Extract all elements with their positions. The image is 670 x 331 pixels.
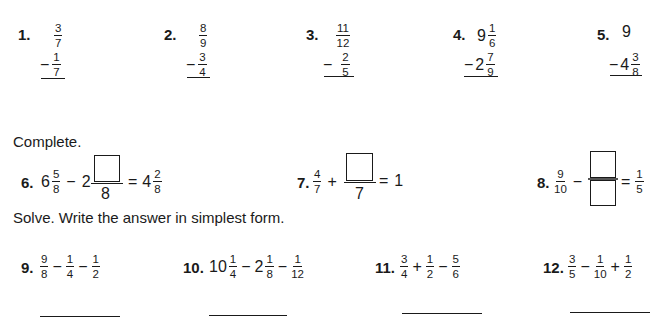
problem-7-number: 7. [297, 174, 310, 191]
problem-11-number: 11. [375, 259, 395, 276]
numerator: 9 [556, 168, 564, 182]
problem-2-number: 2. [164, 26, 177, 43]
numerator: 1 [265, 253, 273, 267]
denominator: 8 [53, 182, 59, 195]
operator: − [464, 56, 473, 74]
denominator: 10 [554, 182, 567, 195]
whole-number: 2 [255, 258, 264, 276]
whole-number: 4 [620, 56, 629, 74]
problem-2-top-fraction: 8 9 [199, 22, 207, 49]
denominator: 4 [230, 267, 236, 280]
problem-6-number: 6. [21, 174, 34, 191]
numerator: 4 [313, 168, 321, 182]
denominator: 6 [453, 267, 459, 280]
fraction: 18 [265, 253, 273, 280]
denominator: 12 [337, 36, 350, 49]
operator: − [186, 56, 195, 74]
problem-1-top-fraction: 3 7 [54, 22, 62, 49]
numerator: 1 [293, 253, 301, 267]
whole-number: 9 [477, 27, 486, 45]
numerator: 3 [400, 253, 408, 267]
fraction: 12 [426, 253, 434, 280]
numerator: 3 [631, 51, 639, 65]
denominator: 9 [200, 36, 206, 49]
whole-number: 2 [82, 173, 91, 191]
operator: − [66, 173, 75, 191]
problem-3-bottom: − 25 [323, 51, 350, 78]
problem-7-numerator-box[interactable] [346, 153, 373, 181]
numerator: 11 [336, 22, 350, 36]
operator: − [438, 258, 447, 276]
operator: = [128, 173, 137, 191]
problem-5-answer-line [610, 75, 642, 76]
problem-6-result: = 4 28 [126, 168, 162, 195]
operator: = [379, 172, 388, 190]
problem-8-numerator-box[interactable] [590, 151, 616, 178]
numerator: 3 [198, 51, 206, 65]
problem-2-bottom: − 34 [186, 51, 207, 78]
numerator: 5 [52, 168, 60, 182]
problem-2-answer-line [187, 77, 210, 78]
problem-4-answer-line [464, 76, 498, 77]
problem-9-number: 9. [21, 259, 34, 276]
problem-7-fraction-bar [344, 182, 376, 183]
operator: − [278, 258, 287, 276]
operator: − [40, 56, 49, 74]
problem-4-bottom: − 2 79 [464, 51, 495, 78]
problem-7-expression: 47 + [313, 168, 343, 195]
fraction: 58 [52, 168, 60, 195]
problem-10-expression: 10 14 − 2 18 − 112 [209, 253, 304, 280]
fraction: 47 [313, 168, 321, 195]
numerator: 8 [199, 22, 207, 36]
complete-instruction: Complete. [13, 133, 81, 150]
problem-5-number: 5. [597, 26, 610, 43]
numerator: 7 [486, 51, 494, 65]
numerator: 5 [452, 253, 460, 267]
denominator: 8 [41, 267, 47, 280]
solve-instruction: Solve. Write the answer in simplest form… [13, 209, 284, 226]
problem-1-answer-line [41, 78, 65, 79]
operator: − [609, 56, 618, 74]
problem-12-number: 12. [543, 259, 564, 276]
denominator: 4 [401, 267, 407, 280]
problem-4-top: 9 16 [477, 22, 496, 49]
denominator: 2 [427, 267, 433, 280]
problem-8-denominator-box[interactable] [590, 180, 616, 206]
fraction: 15 [635, 168, 643, 195]
denominator: 7 [53, 65, 59, 78]
problem-4-number: 4. [453, 26, 466, 43]
fraction: 12 [624, 253, 632, 280]
numerator: 1 [635, 168, 643, 182]
operator: = [621, 173, 630, 191]
denominator: 6 [489, 36, 495, 49]
numerator: 1 [52, 51, 60, 65]
problem-12-answer-line[interactable] [570, 312, 650, 313]
problem-10-answer-line[interactable] [209, 315, 287, 316]
numerator: 2 [341, 51, 349, 65]
numerator: 1 [596, 253, 604, 267]
denominator: 12 [291, 267, 304, 280]
operator: − [241, 258, 250, 276]
fraction: 14 [66, 253, 74, 280]
problem-6-denominator: 8 [101, 185, 110, 203]
problem-1-bottom: − 17 [40, 51, 61, 78]
whole-number: 2 [475, 56, 484, 74]
fraction: 17 [52, 51, 60, 78]
numerator: 2 [153, 168, 161, 182]
whole-number: 6 [41, 173, 50, 191]
problem-5-bottom: − 4 38 [609, 51, 640, 78]
problem-11-answer-line[interactable] [402, 313, 482, 314]
problem-9-answer-line[interactable] [40, 316, 120, 317]
fraction: 79 [486, 51, 494, 78]
problem-3-top-fraction: 11 12 [336, 22, 350, 49]
operator: + [611, 258, 620, 276]
fraction: 12 [92, 253, 100, 280]
problem-6-fraction-bar [91, 183, 123, 184]
fraction: 35 [568, 253, 576, 280]
fraction: 25 [341, 51, 349, 78]
whole-number: 4 [142, 173, 151, 191]
denominator: 5 [636, 182, 642, 195]
fraction: 910 [554, 168, 567, 195]
problem-6-numerator-box[interactable] [94, 155, 120, 182]
problem-7-denominator: 7 [355, 185, 364, 203]
